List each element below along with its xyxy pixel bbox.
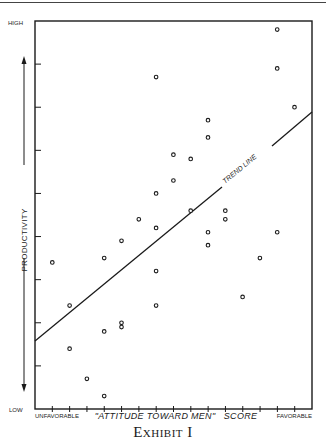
- y-high-label: HIGH: [8, 20, 23, 26]
- data-point: [154, 226, 158, 230]
- x-low-label: UNFAVORABLE: [35, 413, 79, 419]
- data-point: [68, 347, 72, 351]
- data-point: [275, 230, 279, 234]
- data-point: [172, 179, 176, 183]
- data-point: [120, 239, 124, 243]
- exhibit-caption: Exhibit I: [0, 424, 326, 441]
- data-point: [189, 209, 193, 213]
- data-point: [275, 28, 279, 32]
- plot-frame: [35, 21, 312, 409]
- data-point: [120, 325, 124, 329]
- data-point: [241, 295, 245, 299]
- data-point: [206, 118, 210, 122]
- scatter-chart: HIGH LOW PRODUCTIVITY TREND LINE UNFAVOR…: [0, 0, 326, 420]
- data-point: [275, 67, 279, 71]
- data-points: [51, 28, 297, 398]
- y-axis-title-group: PRODUCTIVITY: [20, 56, 29, 392]
- data-point: [154, 304, 158, 308]
- data-point: [102, 394, 106, 398]
- y-low-label: LOW: [9, 407, 23, 413]
- data-point: [206, 136, 210, 140]
- trend-line-lower: [35, 187, 222, 341]
- data-point: [51, 261, 55, 265]
- data-point: [102, 256, 106, 260]
- data-point: [120, 321, 124, 325]
- data-point: [85, 377, 89, 381]
- up-arrow-icon: [22, 56, 27, 64]
- y-axis-ticks: [35, 64, 41, 366]
- x-axis-title: "ATTITUDE TOWARD MEN" SCORE: [95, 411, 258, 420]
- data-point: [224, 209, 228, 213]
- trend-line-group: TREND LINE: [35, 112, 312, 341]
- trend-line-label: TREND LINE: [221, 153, 258, 185]
- data-point: [224, 218, 228, 222]
- data-point: [137, 218, 141, 222]
- data-point: [154, 192, 158, 196]
- data-point: [258, 256, 262, 260]
- data-point: [189, 157, 193, 161]
- data-point: [293, 105, 297, 109]
- data-point: [102, 330, 106, 334]
- data-point: [206, 243, 210, 247]
- down-arrow-icon: [22, 384, 27, 392]
- x-high-label: FAVORABLE: [277, 413, 312, 419]
- data-point: [68, 304, 72, 308]
- data-point: [172, 153, 176, 157]
- trend-line-upper: [272, 112, 312, 146]
- data-point: [154, 75, 158, 79]
- data-point: [206, 230, 210, 234]
- data-point: [154, 269, 158, 273]
